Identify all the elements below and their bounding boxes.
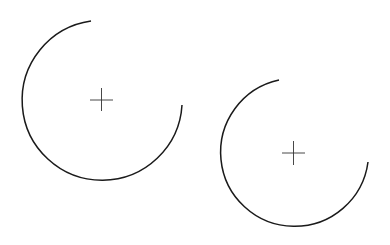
arcs-drawing	[0, 0, 390, 245]
arc-shape-2	[221, 80, 368, 226]
arc-shape-1	[22, 21, 182, 180]
drawing-canvas	[0, 0, 390, 245]
arc-1-curve	[22, 21, 182, 180]
